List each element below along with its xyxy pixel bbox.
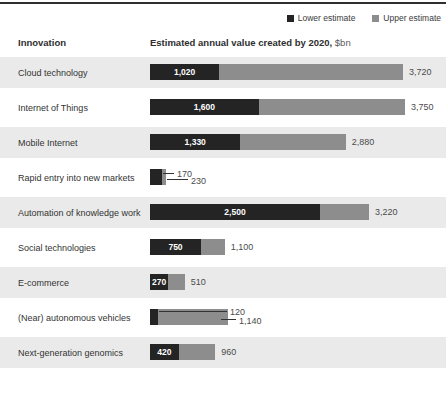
upper-estimate-bar [201,239,225,255]
row-label: E-commerce [18,267,69,298]
legend-lower-estimate: Lower estimate [287,13,356,23]
upper-estimate-bar [179,344,216,360]
chart-row: Internet of Things1,6003,750 [0,92,446,123]
lower-estimate-value: 2,500 [150,204,320,220]
lower-estimate-value: 170 [177,169,192,179]
value-column-header: Estimated annual value created by 2020, … [150,37,351,48]
lower-callout-line [163,173,174,174]
row-label: Cloud technology [18,57,88,88]
chart-row: Automation of knowledge work2,5003,220 [0,197,446,228]
chart-row: Next-generation genomics420960 [0,337,446,368]
lower-estimate-value: 1,330 [150,134,240,150]
upper-estimate-value: 230 [191,176,206,186]
lower-callout-line [159,311,227,312]
upper-estimate-value: 960 [221,344,236,360]
lower-estimate-swatch-icon [287,15,294,22]
row-label: Rapid entry into new markets [18,162,135,193]
upper-estimate-swatch-icon [372,15,379,22]
upper-estimate-value: 1,140 [239,316,262,326]
chart-row: Social technologies7501,100 [0,232,446,263]
chart-rows: Cloud technology1,0203,720Internet of Th… [0,57,446,372]
top-rule [0,2,446,4]
lower-estimate-value: 120 [230,307,245,317]
lower-estimate-value: 1,600 [150,99,259,115]
upper-estimate-value: 3,720 [409,64,432,80]
row-label: Automation of knowledge work [18,197,141,228]
legend-upper-estimate: Upper estimate [372,13,441,23]
lower-estimate-value: 750 [150,239,201,255]
chart-row: E-commerce270510 [0,267,446,298]
innovation-column-header: Innovation [18,37,66,48]
upper-callout-line [167,179,188,180]
upper-estimate-bar [219,64,403,80]
legend-upper-label: Upper estimate [383,13,441,23]
legend-lower-label: Lower estimate [298,13,356,23]
upper-estimate-value: 3,750 [411,99,434,115]
value-column-header-unit: $bn [332,37,351,48]
chart-row: Cloud technology1,0203,720 [0,57,446,88]
legend: Lower estimate Upper estimate [287,13,441,23]
lower-estimate-value: 1,020 [150,64,219,80]
chart-row: Rapid entry into new markets170230 [0,162,446,193]
lower-estimate-bar [150,309,158,325]
upper-estimate-value: 510 [191,274,206,290]
upper-estimate-bar [320,204,369,220]
upper-callout-line [221,319,236,320]
upper-estimate-bar [240,134,345,150]
chart-row: (Near) autonomous vehicles1201,140 [0,302,446,333]
row-label: Next-generation genomics [18,337,123,368]
row-label: Mobile Internet [18,127,78,158]
column-headers: Innovation Estimated annual value create… [0,37,446,51]
row-label: Social technologies [18,232,96,263]
lower-estimate-bar [150,169,162,185]
lower-estimate-value: 420 [150,344,179,360]
upper-estimate-value: 3,220 [375,204,398,220]
row-label: Internet of Things [18,92,88,123]
upper-estimate-value: 1,100 [231,239,254,255]
lower-estimate-value: 270 [150,274,168,290]
chart-row: Mobile Internet1,3302,880 [0,127,446,158]
chart: Lower estimate Upper estimate Innovation… [0,0,446,399]
value-column-header-text: Estimated annual value created by 2020, [150,37,332,48]
upper-estimate-bar [259,99,405,115]
upper-estimate-bar [168,274,184,290]
upper-estimate-value: 2,880 [352,134,375,150]
upper-estimate-bar [162,169,166,185]
row-label: (Near) autonomous vehicles [18,302,131,333]
